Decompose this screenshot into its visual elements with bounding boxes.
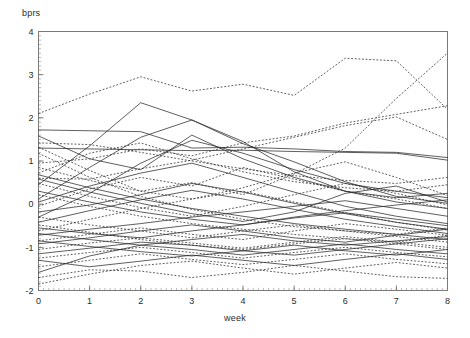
svg-text:4: 4 bbox=[28, 27, 33, 37]
series-line-subject-03 bbox=[39, 53, 448, 195]
svg-text:2: 2 bbox=[138, 296, 143, 306]
series-line-subject-40 bbox=[39, 265, 448, 278]
svg-text:-2: -2 bbox=[25, 286, 33, 296]
series-line-subject-10 bbox=[39, 140, 448, 217]
series-line-subject-32 bbox=[39, 225, 448, 250]
series-line-subject-24 bbox=[39, 195, 448, 242]
series-line-subject-01 bbox=[39, 58, 448, 113]
svg-text:-1: -1 bbox=[25, 243, 33, 253]
bprs-week-figure: bprs week 012345678-2-101234 bbox=[0, 0, 470, 338]
svg-text:0: 0 bbox=[28, 199, 33, 209]
svg-text:1: 1 bbox=[87, 296, 92, 306]
svg-text:3: 3 bbox=[189, 296, 194, 306]
svg-text:4: 4 bbox=[240, 296, 245, 306]
series-line-subject-04 bbox=[39, 117, 448, 179]
svg-text:3: 3 bbox=[28, 70, 33, 80]
svg-text:2: 2 bbox=[28, 113, 33, 123]
series-line-subject-14 bbox=[39, 179, 448, 221]
svg-text:8: 8 bbox=[445, 296, 450, 306]
series-lines bbox=[39, 53, 448, 284]
series-line-subject-02 bbox=[39, 106, 448, 163]
series-line-subject-06 bbox=[39, 148, 448, 160]
spaghetti-plot-canvas: 012345678-2-101234 bbox=[0, 0, 470, 338]
series-line-subject-35 bbox=[39, 247, 448, 258]
svg-text:7: 7 bbox=[394, 296, 399, 306]
svg-text:5: 5 bbox=[292, 296, 297, 306]
svg-text:6: 6 bbox=[343, 296, 348, 306]
svg-text:1: 1 bbox=[28, 156, 33, 166]
series-line-subject-09 bbox=[39, 135, 448, 198]
svg-text:0: 0 bbox=[36, 296, 41, 306]
